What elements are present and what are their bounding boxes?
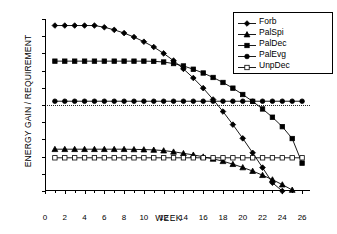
x-minor-tick-mark [253, 191, 254, 193]
series-unpdec [53, 156, 305, 160]
data-point [151, 99, 156, 104]
data-point [260, 156, 264, 160]
data-point [201, 71, 205, 75]
data-point [102, 24, 108, 30]
data-point [221, 99, 226, 104]
x-minor-tick-mark [193, 191, 194, 193]
data-point [161, 99, 166, 104]
data-point [191, 67, 195, 71]
data-point [221, 156, 225, 160]
data-point [280, 124, 284, 128]
data-point [122, 156, 126, 160]
data-point [221, 80, 225, 84]
data-point [112, 59, 116, 63]
data-point [121, 30, 127, 36]
data-point [211, 75, 215, 79]
data-point [300, 99, 305, 104]
legend-item-palevg[interactable]: PalEvg [237, 48, 329, 59]
data-point [92, 156, 96, 160]
x-minor-tick-mark [134, 191, 135, 193]
data-point [290, 156, 294, 160]
data-point [231, 99, 236, 104]
x-minor-tick-mark [55, 191, 56, 193]
data-point [132, 59, 136, 63]
legend-marker-triangle-icon [237, 26, 257, 37]
data-point [82, 156, 86, 160]
data-point [152, 156, 156, 160]
x-tick-mark [223, 191, 224, 194]
data-point [63, 156, 67, 160]
data-point [82, 59, 86, 63]
data-point [53, 156, 57, 160]
data-point [290, 136, 294, 140]
data-point [181, 156, 185, 160]
data-point [102, 99, 107, 104]
data-point [132, 156, 136, 160]
x-tick-mark [243, 191, 244, 194]
data-point [290, 99, 295, 104]
data-point [260, 172, 266, 177]
data-point [82, 23, 88, 29]
data-point [191, 156, 195, 160]
data-point [231, 156, 235, 160]
legend-label: PalSpi [257, 27, 284, 37]
data-point [289, 187, 295, 192]
data-point [279, 182, 285, 187]
data-point [260, 99, 265, 104]
series-line [55, 61, 302, 163]
data-point [161, 156, 165, 160]
data-point [300, 161, 304, 165]
data-point [280, 99, 285, 104]
x-minor-tick-mark [174, 191, 175, 193]
data-point [102, 59, 106, 63]
x-minor-tick-mark [154, 191, 155, 193]
legend-marker-circle-icon [237, 48, 257, 59]
data-point [82, 99, 87, 104]
data-point [270, 99, 275, 104]
data-point [181, 64, 185, 68]
data-point [52, 23, 58, 29]
series-palevg [53, 99, 305, 104]
data-point [92, 23, 98, 29]
x-tick-mark [203, 191, 204, 194]
data-point [92, 59, 96, 63]
data-point [63, 59, 67, 63]
legend-label: PalEvg [257, 49, 286, 59]
x-tick-mark [104, 191, 105, 194]
x-tick-mark [124, 191, 125, 194]
data-point [171, 61, 175, 65]
x-tick-mark [85, 191, 86, 194]
x-minor-tick-mark [94, 191, 95, 193]
data-point [53, 59, 57, 63]
data-point [250, 150, 256, 156]
data-point [201, 156, 205, 160]
data-point [92, 99, 97, 104]
data-point [171, 99, 176, 104]
x-tick-label: 26 [290, 213, 314, 222]
data-point [112, 156, 116, 160]
data-point [72, 156, 76, 160]
data-point [191, 99, 196, 104]
legend-label: PalDec [257, 38, 286, 48]
data-point [211, 156, 215, 160]
data-point [181, 99, 186, 104]
data-point [62, 99, 67, 104]
data-point [72, 99, 77, 104]
legend-item-paldec[interactable]: PalDec [237, 37, 329, 48]
data-point [141, 39, 147, 45]
data-point [131, 34, 137, 40]
legend-item-palspi[interactable]: PalSpi [237, 26, 329, 37]
legend-marker-square-icon [237, 37, 257, 48]
legend-item-unpdec[interactable]: UnpDec [237, 59, 329, 70]
data-point [132, 99, 137, 104]
data-point [152, 59, 156, 63]
x-tick-mark [302, 191, 303, 194]
data-point [53, 99, 58, 104]
data-point [211, 99, 216, 104]
chart-legend: ForbPalSpiPalDecPalEvgUnpDec [233, 12, 333, 74]
data-point [231, 86, 235, 90]
data-point [201, 99, 206, 104]
legend-item-forb[interactable]: Forb [237, 15, 329, 26]
data-point [102, 156, 106, 160]
data-point [300, 156, 304, 160]
